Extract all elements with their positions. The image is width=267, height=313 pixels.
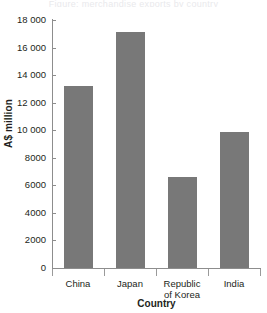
y-axis-tick-label: 0 (41, 263, 46, 273)
plot-area: 18 00016 00014 00012 00010 0008000600040… (52, 20, 260, 268)
x-axis-tick-label-line: China (52, 278, 104, 289)
y-axis-tick-label: 14 000 (17, 70, 46, 80)
x-axis-tick-label: China (52, 278, 104, 289)
y-axis-tick-label: 16 000 (17, 43, 46, 53)
bar (168, 177, 197, 268)
x-axis-tick-label-line: India (208, 278, 260, 289)
x-axis-separator-tick (260, 269, 261, 276)
y-axis-tick-label: 18 000 (17, 15, 46, 25)
y-axis-tick-label: 8000 (25, 153, 46, 163)
y-axis-title: A$ million (3, 84, 14, 164)
x-axis-tick-label-line: Republic (156, 278, 208, 289)
bar-chart-figure: Figure: merchandise exports by country A… (0, 0, 267, 313)
cropped-caption-text: Figure: merchandise exports by country (0, 0, 267, 7)
x-axis-separator-tick (156, 269, 157, 276)
x-axis-tick-label-line: Japan (104, 278, 156, 289)
bar-series (52, 20, 260, 268)
x-axis-title: Country (52, 298, 261, 309)
bar (116, 32, 145, 268)
x-axis-tick-label: India (208, 278, 260, 289)
bar (220, 132, 249, 268)
y-axis-tick-label: 10 000 (17, 125, 46, 135)
x-axis-separator-tick (52, 269, 53, 276)
x-axis-separator-tick (208, 269, 209, 276)
bar (64, 86, 93, 268)
x-axis-tick-label: Japan (104, 278, 156, 289)
y-axis-tick-label: 6000 (25, 180, 46, 190)
y-axis-tick-label: 2000 (25, 235, 46, 245)
x-axis-separator-tick (104, 269, 105, 276)
x-axis-tick-label: Republicof Korea (156, 278, 208, 300)
y-axis-tick-label: 12 000 (17, 98, 46, 108)
y-axis-tick-label: 4000 (25, 208, 46, 218)
